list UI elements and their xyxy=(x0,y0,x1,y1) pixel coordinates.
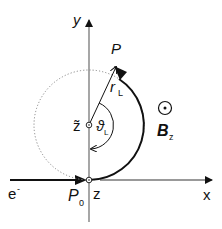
field-label: B xyxy=(157,122,169,139)
field-sub-label: z xyxy=(169,132,174,142)
electron-sup-label: - xyxy=(17,184,20,194)
x-axis-label: x xyxy=(203,186,211,203)
point-p-label: P xyxy=(111,40,121,57)
diagram-canvas: y x P r L z̃ ϑ L B z e - P 0 z xyxy=(0,0,222,229)
y-axis-label: y xyxy=(72,11,82,28)
center-label: z̃ xyxy=(73,117,81,134)
angle-sub-label: L xyxy=(104,128,109,137)
radius-sub-label: L xyxy=(118,88,123,98)
electron-label: e xyxy=(8,185,16,202)
start-sub-label: 0 xyxy=(79,198,84,208)
radius-label: r xyxy=(110,78,116,95)
origin-z-label: z xyxy=(93,185,101,202)
start-point-label: P xyxy=(68,187,79,204)
